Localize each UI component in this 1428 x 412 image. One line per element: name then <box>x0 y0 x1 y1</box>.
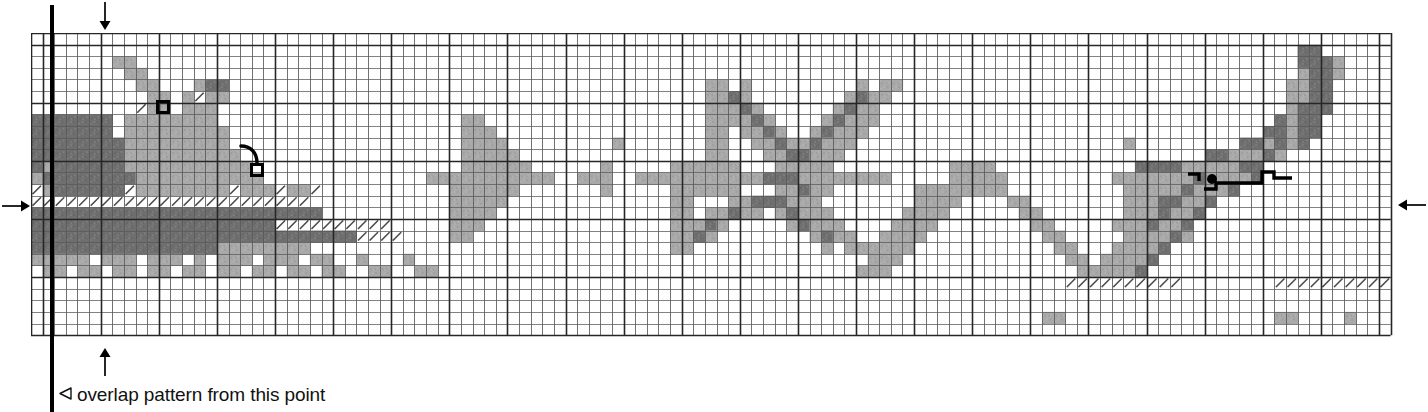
overlap-start-line <box>50 5 54 412</box>
bottom-arrow <box>97 348 113 376</box>
top-arrow <box>97 2 113 30</box>
knitting-chart: overlap pattern from this point <box>0 0 1428 412</box>
pattern-grid[interactable] <box>31 33 1393 337</box>
left-arrow <box>2 198 30 214</box>
caption-triangle-icon <box>58 384 73 406</box>
caption: overlap pattern from this point <box>58 384 325 406</box>
right-arrow <box>1398 197 1426 213</box>
caption-text: overlap pattern from this point <box>77 384 325 406</box>
